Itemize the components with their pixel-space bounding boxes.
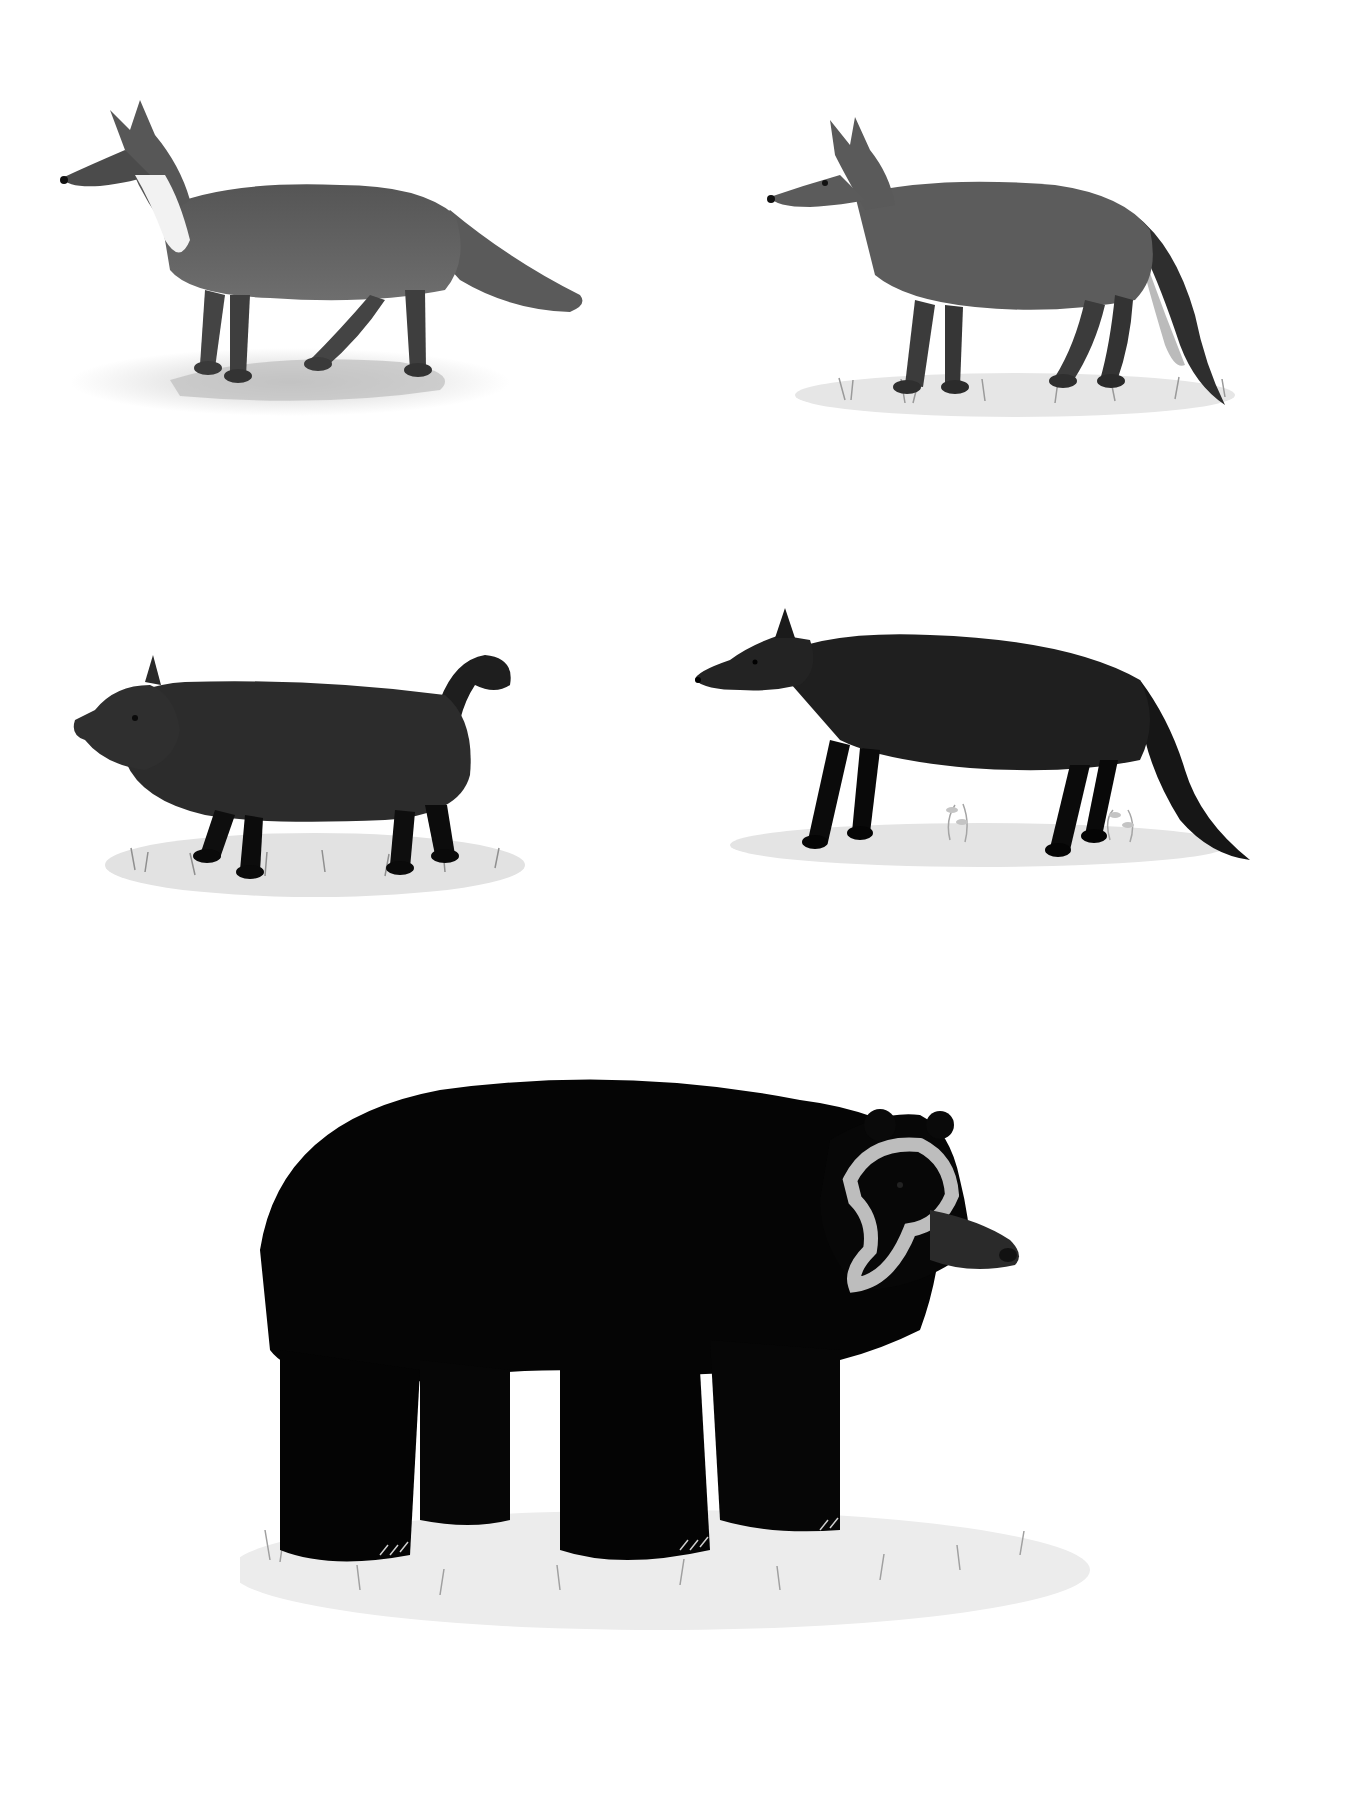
illustration-bear	[240, 1050, 1120, 1650]
fox-on-rock-drawing	[40, 90, 600, 420]
spectacled-bear-drawing	[240, 1050, 1120, 1650]
dark-slender-canid-drawing	[690, 600, 1270, 880]
jackal-on-grass-drawing	[755, 115, 1275, 425]
illustration-dark-slender-canid	[690, 600, 1270, 880]
illustration-canid-on-rock	[40, 90, 600, 420]
illustration-short-legged-canid	[65, 640, 575, 905]
illustration-canid-on-grass	[755, 115, 1275, 425]
short-legged-canid-drawing	[65, 640, 575, 905]
